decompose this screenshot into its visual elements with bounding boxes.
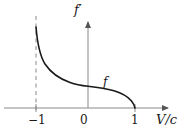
frequency-curve bbox=[36, 27, 135, 108]
axes-group bbox=[4, 22, 168, 108]
x-axis-label: V/c bbox=[156, 113, 177, 126]
relativistic-doppler-figure: f′ V/c f −1 0 1 bbox=[0, 0, 189, 138]
tick-label-one: 1 bbox=[131, 114, 139, 126]
curve-label: f bbox=[103, 76, 107, 88]
y-axis-label: f′ bbox=[74, 3, 82, 16]
tick-label-zero: 0 bbox=[80, 114, 88, 126]
tick-label-neg-one: −1 bbox=[28, 114, 46, 126]
